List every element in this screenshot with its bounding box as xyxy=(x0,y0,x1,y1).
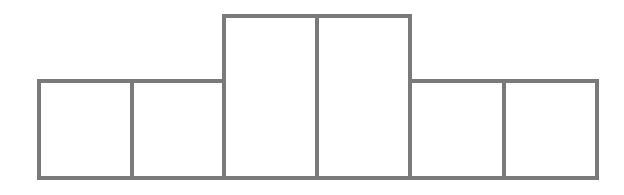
block-3 xyxy=(222,14,319,180)
block-5 xyxy=(408,79,506,180)
block-1 xyxy=(37,79,134,180)
block-2 xyxy=(130,79,226,180)
block-6 xyxy=(502,79,599,180)
block-4 xyxy=(315,14,412,180)
